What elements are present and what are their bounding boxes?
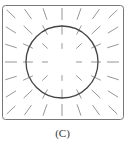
field-segment [7,106,16,114]
field-segment [93,105,100,115]
field-segment [108,27,118,33]
field-segment [109,10,118,18]
field-segment [107,76,118,80]
field-segment [7,10,16,18]
field-segment [92,90,101,98]
field-segment [6,91,16,97]
field-segment [24,90,33,98]
direction-field-segments [5,8,119,116]
plot-frame [3,6,124,120]
field-segment [23,44,33,49]
field-segment [77,8,81,19]
field-segment [24,26,33,34]
field-segment [76,43,81,48]
field-segment [6,27,16,33]
figure-caption: (C) [0,127,125,139]
field-segment [42,75,47,80]
field-segment [77,104,81,115]
field-segment [43,104,47,115]
field-segment [93,9,100,19]
field-segment [91,44,101,49]
field-segment [107,44,118,48]
field-segment [76,75,81,80]
field-segment [108,91,118,97]
field-segment [25,105,32,115]
field-segment [109,106,118,114]
field-segment [23,76,33,81]
field-segment [91,76,101,81]
field-segment [25,9,32,19]
solution-circle [26,26,98,98]
field-segment [92,26,101,34]
slope-field-diagram [0,0,131,146]
field-segment [43,8,47,19]
field-segment [42,43,47,48]
field-segment [5,76,16,80]
field-segment [5,44,16,48]
